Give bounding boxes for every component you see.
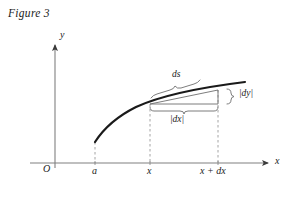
tick-label-x: x xyxy=(147,166,151,176)
origin-label: O xyxy=(43,164,50,174)
dx-label: |dx| xyxy=(170,115,184,125)
function-curve xyxy=(95,82,245,142)
arc-length-label: ds xyxy=(172,70,180,80)
figure-container: Figure 3 y x O a x x + dx ds |dy| |dx| xyxy=(0,0,294,200)
figure-caption: Figure 3 xyxy=(8,8,50,20)
dx-brace xyxy=(150,107,218,114)
x-axis-label: x xyxy=(275,156,279,166)
tick-label-a: a xyxy=(92,166,97,176)
tick-label-x-plus-dx: x + dx xyxy=(200,166,226,176)
dy-brace xyxy=(227,89,234,104)
dy-label: |dy| xyxy=(239,89,253,99)
y-axis-label: y xyxy=(60,30,64,40)
